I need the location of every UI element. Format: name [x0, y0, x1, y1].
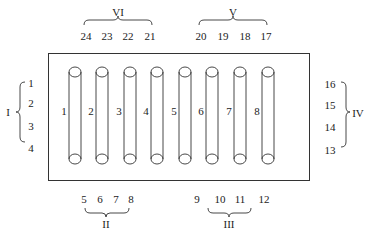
- group-label-I: I: [6, 106, 10, 118]
- terminal-11: 11: [235, 193, 246, 205]
- cylinder-array: 12345678: [61, 67, 274, 164]
- brace-IV: [341, 82, 350, 147]
- cylinder-label-4: 4: [143, 105, 149, 117]
- cylinder-7: 7: [226, 67, 246, 164]
- terminal-5: 5: [81, 193, 87, 205]
- group-label-II: II: [102, 218, 110, 230]
- group-IV: IV 16 15 14 13: [325, 78, 364, 156]
- cylinder-4: 4: [143, 67, 163, 164]
- terminal-20: 20: [196, 30, 208, 42]
- cylinder-label-2: 2: [88, 105, 94, 117]
- terminal-6: 6: [97, 193, 103, 205]
- brace-II: [85, 208, 129, 217]
- cylinder-8: 8: [254, 67, 274, 164]
- terminal-7: 7: [113, 193, 119, 205]
- cylinder-3: 3: [116, 67, 136, 164]
- group-VI: VI 24 23 22 21: [81, 6, 156, 42]
- terminal-8: 8: [128, 193, 134, 205]
- terminal-4: 4: [28, 142, 34, 154]
- group-V: V 20 19 18 17: [196, 6, 273, 42]
- cylinder-2: 2: [88, 67, 108, 164]
- cylinder-6: 6: [198, 67, 218, 164]
- terminal-16: 16: [325, 78, 337, 90]
- cylinder-label-7: 7: [226, 105, 232, 117]
- cylinder-label-3: 3: [116, 105, 122, 117]
- electrode-diagram: 12345678 VI 24 23 22 21 V 20 19 18 17 I …: [0, 0, 369, 239]
- terminal-17: 17: [261, 30, 273, 42]
- cylinder-label-8: 8: [254, 105, 260, 117]
- terminal-24: 24: [81, 30, 93, 42]
- terminal-22: 22: [123, 30, 134, 42]
- group-III: 9 10 11 12 III: [194, 193, 269, 230]
- terminal-9: 9: [194, 193, 200, 205]
- group-label-III: III: [224, 218, 235, 230]
- terminal-19: 19: [218, 30, 230, 42]
- group-label-IV: IV: [352, 107, 364, 119]
- group-I: I 1 2 3 4: [6, 77, 34, 154]
- brace-III: [208, 208, 251, 217]
- terminal-3: 3: [28, 120, 34, 132]
- cylinder-label-1: 1: [61, 105, 67, 117]
- brace-V: [199, 16, 267, 25]
- cylinder-label-6: 6: [198, 105, 204, 117]
- terminal-10: 10: [215, 193, 227, 205]
- terminal-21: 21: [145, 30, 156, 42]
- terminal-2: 2: [28, 97, 34, 109]
- brace-VI: [84, 16, 152, 25]
- terminal-1: 1: [28, 77, 34, 89]
- cylinder-5: 5: [171, 67, 191, 164]
- cylinder-1: 1: [61, 67, 81, 164]
- terminal-13: 13: [325, 144, 337, 156]
- terminal-12: 12: [259, 193, 270, 205]
- terminal-15: 15: [325, 99, 337, 111]
- terminal-23: 23: [102, 30, 114, 42]
- cylinder-label-5: 5: [171, 105, 177, 117]
- group-II: 5 6 7 8 II: [81, 193, 134, 230]
- terminal-18: 18: [240, 30, 252, 42]
- brace-I: [16, 82, 25, 142]
- terminal-14: 14: [325, 121, 337, 133]
